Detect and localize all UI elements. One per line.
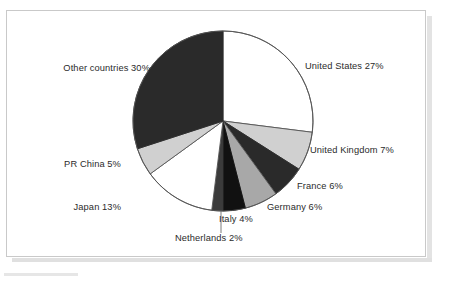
pie-label-united-kingdom: United Kingdom 7%: [310, 146, 394, 155]
pie-label-japan: Japan 13%: [63, 203, 121, 212]
pie-label-italy: Italy 4%: [219, 215, 253, 224]
pie-label-other-countries: Other countries 30%: [40, 64, 150, 73]
pie-label-pr-china: PR China 5%: [45, 160, 121, 169]
pie-label-germany: Germany 6%: [267, 203, 322, 212]
pie-label-united-states: United States 27%: [305, 62, 384, 71]
page-root: United States 27% United Kingdom 7% Fran…: [0, 0, 460, 284]
pie-chart: United States 27% United Kingdom 7% Fran…: [0, 0, 460, 284]
pie-slice-group: [133, 31, 313, 211]
pie-label-france: France 6%: [297, 182, 343, 191]
pie-label-netherlands: Netherlands 2%: [175, 234, 243, 243]
pie-slice-united-states: [223, 31, 313, 132]
